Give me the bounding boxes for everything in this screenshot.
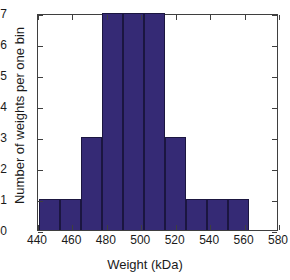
y-axis-tick (38, 139, 43, 140)
x-axis-tick (38, 15, 39, 20)
x-axis-tick (72, 225, 73, 230)
x-axis-tick (279, 225, 280, 230)
histogram-bar (228, 199, 249, 230)
histogram-bar (102, 13, 123, 230)
y-axis-tick (38, 170, 43, 171)
y-axis-tick (38, 201, 43, 202)
y-axis-title: Number of weights per one bin (12, 1, 27, 231)
histogram-bar (144, 13, 165, 230)
x-axis-tick (245, 225, 246, 230)
y-axis-tick (38, 46, 43, 47)
x-axis-tick (38, 225, 39, 230)
x-axis-tick (176, 225, 177, 230)
y-axis-tick-label: 6 (0, 39, 7, 51)
x-axis-title: Weight (kDa) (0, 257, 290, 272)
x-axis-tick (245, 15, 246, 20)
histogram-bar (186, 199, 207, 230)
x-axis-tick-label: 580 (258, 234, 290, 246)
histogram-bars (38, 15, 277, 230)
y-axis-tick (272, 170, 277, 171)
y-axis-tick (272, 108, 277, 109)
histogram-figure: 01234567 440460480500520540560580 Number… (0, 0, 290, 280)
histogram-bar (60, 199, 81, 230)
x-axis-tick (176, 15, 177, 20)
y-axis-tick (38, 77, 43, 78)
x-axis-tick (107, 225, 108, 230)
y-axis-tick-label: 0 (0, 225, 7, 237)
x-axis-tick (210, 15, 211, 20)
x-axis-tick (72, 15, 73, 20)
histogram-bar (39, 199, 60, 230)
y-axis-tick-label: 3 (0, 132, 7, 144)
x-axis-tick (141, 15, 142, 20)
x-axis-tick (141, 225, 142, 230)
histogram-bar (81, 137, 102, 230)
plot-area (37, 14, 278, 231)
x-axis-tick (279, 15, 280, 20)
y-axis-tick (38, 108, 43, 109)
x-axis-tick (210, 225, 211, 230)
y-axis-tick (272, 201, 277, 202)
y-axis-tick (272, 77, 277, 78)
y-axis-tick (272, 139, 277, 140)
y-axis-tick-label: 1 (0, 194, 7, 206)
y-axis-tick (272, 46, 277, 47)
y-axis-tick-label: 2 (0, 163, 7, 175)
y-axis-tick (272, 15, 277, 16)
histogram-bar (123, 13, 144, 230)
y-axis-tick-label: 7 (0, 8, 7, 20)
x-axis-tick (107, 15, 108, 20)
y-axis-tick-label: 5 (0, 70, 7, 82)
y-axis-tick-label: 4 (0, 101, 7, 113)
histogram-bar (165, 137, 186, 230)
